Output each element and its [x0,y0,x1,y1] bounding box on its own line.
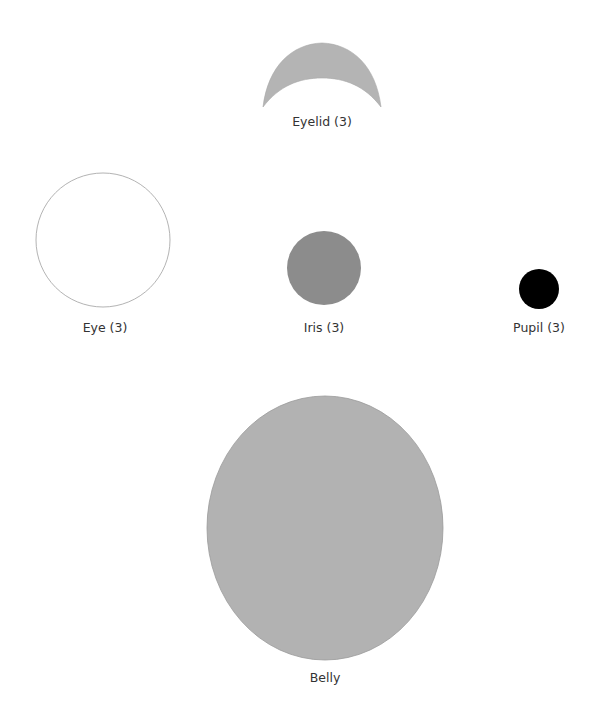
iris-shape [287,231,361,305]
eye-shape [36,173,170,307]
eye-label: Eye (3) [83,320,128,335]
parts-diagram [0,0,596,708]
pupil-label: Pupil (3) [513,320,565,335]
belly-shape [207,396,443,660]
eyelid-shape [263,43,381,107]
iris-label: Iris (3) [304,320,345,335]
eyelid-label: Eyelid (3) [292,114,352,129]
belly-label: Belly [310,670,341,685]
pupil-shape [519,269,559,309]
